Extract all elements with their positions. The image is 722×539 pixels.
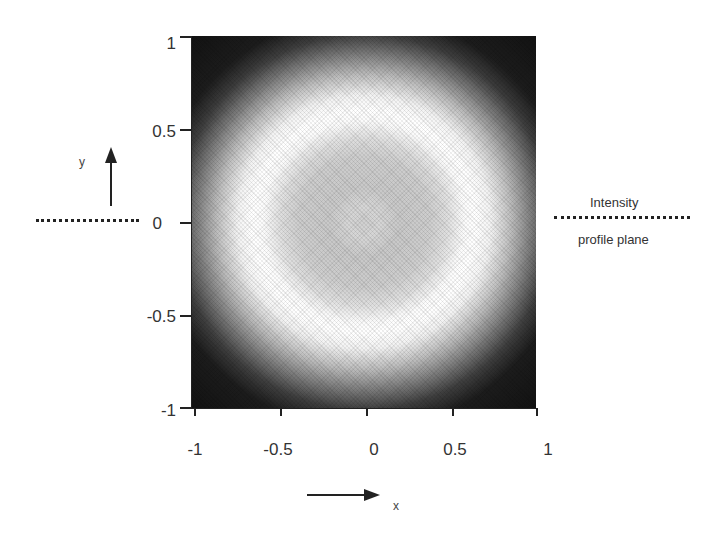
x-direction-arrow-icon <box>307 494 367 496</box>
x-tick-label: 0.5 <box>425 440 485 460</box>
x-tick-mark <box>194 408 196 416</box>
profile-plane-line-left <box>36 219 139 222</box>
x-tick-mark <box>452 408 454 416</box>
y-tick-mark <box>180 36 192 38</box>
x-tick-mark <box>280 408 282 416</box>
x-axis-line <box>191 408 537 409</box>
x-axis-name: x <box>393 499 399 513</box>
y-tick-label: -1 <box>116 401 176 421</box>
y-direction-arrowhead-icon <box>105 147 117 163</box>
y-tick-label: 0.5 <box>116 122 176 142</box>
heatmap-plot-area <box>192 36 536 408</box>
x-tick-mark <box>536 408 538 416</box>
y-axis-name: y <box>79 155 85 169</box>
x-tick-label: 0 <box>344 440 404 460</box>
x-tick-label: -0.5 <box>248 440 308 460</box>
y-tick-label: 1 <box>116 34 176 54</box>
x-tick-mark <box>366 408 368 416</box>
y-tick-label: 0 <box>102 214 162 234</box>
profile-plane-line-right <box>554 216 690 219</box>
annotation-intensity: Intensity <box>590 195 638 210</box>
y-direction-arrow-icon <box>110 160 112 206</box>
x-tick-label: 1 <box>518 440 578 460</box>
y-tick-mark <box>180 222 192 224</box>
y-tick-mark <box>180 407 192 409</box>
y-tick-label: -0.5 <box>116 307 176 327</box>
annotation-profile-plane: profile plane <box>578 232 649 247</box>
x-direction-arrowhead-icon <box>364 489 380 501</box>
x-tick-label: -1 <box>165 440 225 460</box>
y-tick-mark <box>180 315 192 317</box>
y-tick-mark <box>180 129 192 131</box>
